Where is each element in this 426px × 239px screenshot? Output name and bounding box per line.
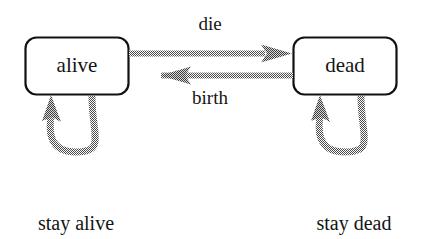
transition-arrow-die[interactable] — [129, 45, 292, 63]
self-loop-stay-dead[interactable] — [311, 95, 364, 152]
self-loop-label-stay-alive-line1: stay alive — [4, 212, 148, 234]
self-loop-label-stay-alive: stay alive (survive) — [4, 168, 148, 239]
state-label-alive: alive — [25, 54, 129, 77]
transition-arrow-birth[interactable] — [160, 67, 293, 85]
transition-label-birth: birth — [160, 88, 260, 109]
self-loop-label-stay-dead: stay dead — [282, 168, 426, 239]
self-loop-label-stay-dead-line1: stay dead — [282, 212, 426, 234]
state-label-dead: dead — [293, 54, 397, 77]
transition-label-die: die — [160, 14, 260, 35]
self-loop-stay-alive[interactable] — [42, 95, 95, 152]
state-diagram: alive dead die birth stay alive (survive… — [0, 0, 426, 239]
